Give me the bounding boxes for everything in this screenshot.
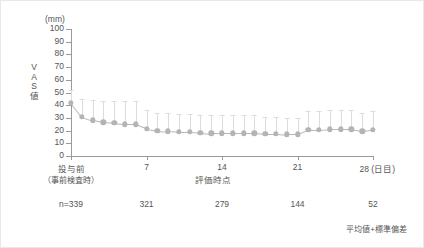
plot-area: 1009080706050403020100 投与前（事前検査時）7142128… <box>71 29 373 156</box>
error-bar-cap <box>306 111 311 112</box>
y-axis-tick-label: 80 <box>40 48 64 58</box>
x-axis-tick <box>71 156 72 160</box>
error-bar-cap <box>230 115 235 116</box>
y-axis-tick: 30 <box>66 118 71 119</box>
x-axis-tick <box>373 156 374 160</box>
y-axis-tick-label: 30 <box>40 112 64 122</box>
y-axis-tick-label: 90 <box>40 36 64 46</box>
chart-note: 平均値+標準偏差 <box>346 223 407 234</box>
error-bar-cap <box>155 113 160 114</box>
y-axis-tick: 20 <box>66 131 71 132</box>
data-point-marker <box>230 130 235 135</box>
x-axis-tick-label: 14 <box>217 162 226 172</box>
y-axis-tick: 80 <box>66 54 71 55</box>
x-axis-tick <box>222 156 223 160</box>
data-point-marker <box>273 131 278 136</box>
data-point-marker <box>165 129 170 134</box>
x-axis-tick-label: 7 <box>144 162 149 172</box>
error-bar-cap <box>90 100 95 101</box>
error-bar-cap <box>112 101 117 102</box>
error-bar-cap <box>360 113 365 114</box>
sample-size-label: 321 <box>139 199 153 209</box>
y-axis-tick-label: 40 <box>40 99 64 109</box>
sample-size-label: 279 <box>215 199 229 209</box>
data-point-marker <box>338 127 343 132</box>
data-point-marker <box>219 130 224 135</box>
error-bar-cap <box>349 110 354 111</box>
data-point-marker <box>306 127 311 132</box>
data-point-marker <box>90 118 95 123</box>
y-axis-tick: 90 <box>66 42 71 43</box>
x-axis-title: 評価時点 <box>1 173 424 185</box>
data-point-marker <box>241 130 246 135</box>
data-point-marker <box>252 130 257 135</box>
data-point-marker <box>316 127 321 132</box>
error-bar-cap <box>79 99 84 100</box>
y-axis-tick: 60 <box>66 80 71 81</box>
y-axis-tick: 10 <box>66 143 71 144</box>
x-axis-tick <box>298 156 299 160</box>
error-bar-cap <box>176 114 181 115</box>
y-axis-tick: 40 <box>66 105 71 106</box>
error-bar-cap <box>198 115 203 116</box>
data-point-marker <box>144 126 149 131</box>
data-point-marker <box>370 127 375 132</box>
error-bar-cap <box>69 90 74 91</box>
error-bar-cap <box>241 115 246 116</box>
error-bar-cap <box>252 115 257 116</box>
sample-size-label: 144 <box>290 199 304 209</box>
data-point-marker <box>209 130 214 135</box>
x-axis-tick-label: 21 <box>293 162 302 172</box>
error-bar-cap <box>133 101 138 102</box>
y-axis-tick-label: 60 <box>40 74 64 84</box>
error-bar-cap <box>263 117 268 118</box>
y-axis-title: V A S 値 <box>28 63 40 101</box>
error-bar-cap <box>166 113 171 114</box>
y-axis-tick-label: 100 <box>40 23 64 33</box>
data-point-marker <box>176 129 181 134</box>
data-point-marker <box>187 129 192 134</box>
error-bar-cap <box>317 111 322 112</box>
error-bar-cap <box>273 117 278 118</box>
error-bar-cap <box>220 115 225 116</box>
error-bar-cap <box>371 111 376 112</box>
y-axis-tick-label: 50 <box>40 87 64 97</box>
y-axis-tick-label: 70 <box>40 61 64 71</box>
data-point-marker <box>198 130 203 135</box>
error-bar-cap <box>101 101 106 102</box>
data-point-marker <box>295 132 300 137</box>
y-axis-tick-label: 20 <box>40 125 64 135</box>
y-axis-tick: 100 <box>66 29 71 30</box>
error-bar-cap <box>122 101 127 102</box>
error-bar-cap <box>209 115 214 116</box>
data-point-marker <box>111 120 116 125</box>
y-axis-tick-label: 10 <box>40 137 64 147</box>
data-point-marker <box>360 129 365 134</box>
error-bar-cap <box>144 110 149 111</box>
sample-size-label: n=339 <box>59 199 83 209</box>
error-bar-cap <box>295 118 300 119</box>
error-bar-cap <box>187 114 192 115</box>
sample-size-row: n=33932127914452 <box>1 199 424 211</box>
error-bar-cap <box>338 110 343 111</box>
y-axis-tick: 70 <box>66 67 71 68</box>
data-point-marker <box>155 128 160 133</box>
error-bar-cap <box>327 110 332 111</box>
data-point-marker <box>122 122 127 127</box>
sample-size-label: 52 <box>368 199 377 209</box>
data-point-marker <box>349 127 354 132</box>
error-bar-cap <box>284 118 289 119</box>
data-point-marker <box>262 131 267 136</box>
y-axis-tick-label: 0 <box>40 150 64 160</box>
y-axis-title-char: 値 <box>28 92 40 102</box>
data-point-marker <box>101 120 106 125</box>
data-point-marker <box>284 132 289 137</box>
data-point-marker <box>327 127 332 132</box>
chart-figure: (mm) V A S 値 1009080706050403020100 投与前（… <box>0 0 424 248</box>
x-axis-tick <box>147 156 148 160</box>
